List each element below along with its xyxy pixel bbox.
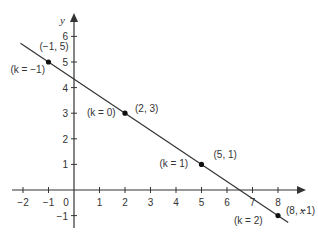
y-tick-label: 4 (62, 83, 68, 94)
point-label: (2, 3) (135, 103, 158, 114)
x-tick-label: 1 (97, 197, 103, 208)
data-point (199, 162, 204, 167)
k-label: (k = −1) (11, 64, 45, 75)
data-point (122, 111, 127, 116)
k-label: (k = 1) (160, 158, 189, 169)
y-tick-label: −1 (57, 211, 69, 222)
x-tick-label: 2 (122, 197, 128, 208)
y-tick-label: 3 (62, 108, 68, 119)
y-tick-label: 1 (62, 159, 68, 170)
k-label: (k = 2) (234, 215, 263, 226)
x-tick-label: 6 (224, 197, 230, 208)
data-point (275, 213, 280, 218)
x-tick-label: 8 (275, 197, 281, 208)
data-point (46, 59, 51, 64)
data-line (20, 43, 288, 222)
x-tick-label: 5 (199, 197, 205, 208)
point-label: (−1, 5) (40, 41, 69, 52)
chart: xy−2−1012345678−1123456(−1, 5)(k = −1)(2… (0, 0, 318, 236)
y-tick-label: 2 (62, 134, 68, 145)
x-tick-label: 3 (148, 197, 154, 208)
x-tick-label: 4 (173, 197, 179, 208)
x-axis-arrow-icon (297, 186, 306, 194)
x-tick-label: 0 (63, 197, 69, 208)
point-label: (8, −1) (286, 205, 315, 216)
x-tick-label: −2 (17, 197, 29, 208)
k-label: (k = 0) (87, 107, 116, 118)
x-tick-label: −1 (43, 197, 55, 208)
y-tick-label: 5 (62, 57, 68, 68)
point-label: (5, 1) (214, 149, 237, 160)
y-axis-arrow-icon (70, 13, 78, 22)
y-axis-label: y (59, 14, 65, 26)
